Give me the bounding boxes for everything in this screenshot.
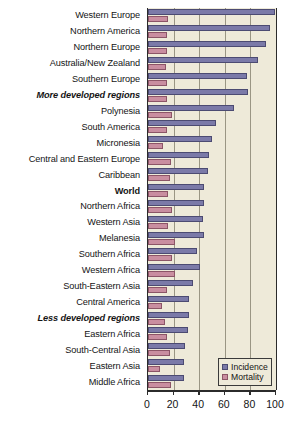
category-label: Western Africa <box>0 263 144 279</box>
x-axis-line <box>147 390 276 392</box>
bar-row <box>148 72 276 88</box>
bar-row <box>148 326 276 342</box>
bar-row <box>148 104 276 120</box>
bar-incidence <box>148 41 266 47</box>
bar-row <box>148 295 276 311</box>
bar-row <box>148 8 276 24</box>
bar-incidence <box>148 184 204 190</box>
bar-mortality <box>148 319 165 325</box>
bar-mortality <box>148 207 172 213</box>
bar-incidence <box>148 168 208 174</box>
bar-mortality <box>148 255 172 261</box>
x-axis-tick <box>147 390 148 395</box>
bar-mortality <box>148 223 168 229</box>
bar-row <box>148 183 276 199</box>
bar-row <box>148 215 276 231</box>
bar-row <box>148 342 276 358</box>
category-label: South America <box>0 119 144 135</box>
bar-mortality <box>148 350 170 356</box>
bar-incidence <box>148 57 258 63</box>
bar-incidence <box>148 200 204 206</box>
category-label: Central and Eastern Europe <box>0 151 144 167</box>
bar-row <box>148 135 276 151</box>
bar-row <box>148 231 276 247</box>
x-axis-tick-label: 20 <box>167 398 179 410</box>
bar-row <box>148 247 276 263</box>
bar-mortality <box>148 175 170 181</box>
category-label: Caribbean <box>0 167 144 183</box>
bar-incidence <box>148 312 189 318</box>
x-axis-tick-label: 40 <box>192 398 204 410</box>
bar-mortality <box>148 64 166 70</box>
bar-incidence <box>148 216 203 222</box>
x-axis-tick <box>249 390 250 395</box>
category-label: South-Central Asia <box>0 342 144 358</box>
x-axis-tick-label: 60 <box>218 398 230 410</box>
x-axis-tick-label: 100 <box>266 398 284 410</box>
bar-mortality <box>148 96 167 102</box>
bar-row <box>148 88 276 104</box>
category-label: Micronesia <box>0 135 144 151</box>
category-label: Polynesia <box>0 104 144 120</box>
bar-incidence <box>148 152 209 158</box>
x-axis-tick <box>198 390 199 395</box>
bar-incidence <box>148 232 204 238</box>
category-label: Northern America <box>0 24 144 40</box>
bar-mortality <box>148 112 172 118</box>
bar-mortality <box>148 80 167 86</box>
bar-incidence <box>148 89 248 95</box>
category-label: Eastern Africa <box>0 326 144 342</box>
bar-incidence <box>148 264 200 270</box>
bar-mortality <box>148 239 175 245</box>
bar-row <box>148 199 276 215</box>
plot-area <box>147 8 277 390</box>
bar-mortality <box>148 16 168 22</box>
x-axis-tick <box>275 390 276 395</box>
bar-row <box>148 24 276 40</box>
category-label: Central America <box>0 295 144 311</box>
bar-incidence <box>148 136 212 142</box>
category-label: South-Eastern Asia <box>0 279 144 295</box>
bar-row <box>148 56 276 72</box>
bar-chart: Western EuropeNorthern AmericaNorthern E… <box>0 0 299 434</box>
bar-incidence <box>148 296 189 302</box>
bar-incidence <box>148 73 247 79</box>
legend-swatch-mortality <box>222 374 228 380</box>
legend-label-mortality: Mortality <box>231 373 263 382</box>
x-axis-tick <box>224 390 225 395</box>
bar-mortality <box>148 366 160 372</box>
bar-mortality <box>148 159 171 165</box>
bar-row <box>148 279 276 295</box>
bar-mortality <box>148 143 163 149</box>
bar-mortality <box>148 48 167 54</box>
bar-incidence <box>148 25 270 31</box>
bar-incidence <box>148 248 197 254</box>
category-label: Australia/New Zealand <box>0 56 144 72</box>
category-label: Northern Europe <box>0 40 144 56</box>
x-axis-tick <box>173 390 174 395</box>
legend-item-incidence: Incidence <box>222 363 267 372</box>
bar-mortality <box>148 271 175 277</box>
chart-legend: Incidence Mortality <box>218 358 272 386</box>
bar-incidence <box>148 359 184 365</box>
category-label: Western Europe <box>0 8 144 24</box>
bar-mortality <box>148 191 168 197</box>
bar-row <box>148 151 276 167</box>
category-axis-labels: Western EuropeNorthern AmericaNorthern E… <box>0 8 144 390</box>
legend-label-incidence: Incidence <box>231 363 268 372</box>
bar-series-container <box>148 8 276 390</box>
bar-incidence <box>148 105 234 111</box>
category-label: Less developed regions <box>0 311 144 327</box>
category-label: Eastern Asia <box>0 358 144 374</box>
bar-mortality <box>148 334 167 340</box>
category-label: More developed regions <box>0 88 144 104</box>
bar-incidence <box>148 9 275 15</box>
bar-mortality <box>148 127 167 133</box>
bar-incidence <box>148 120 216 126</box>
bar-mortality <box>148 32 167 38</box>
category-label: Northern Africa <box>0 199 144 215</box>
bar-incidence <box>148 327 188 333</box>
bar-incidence <box>148 375 184 381</box>
category-label: Melanesia <box>0 231 144 247</box>
bar-mortality <box>148 382 171 388</box>
